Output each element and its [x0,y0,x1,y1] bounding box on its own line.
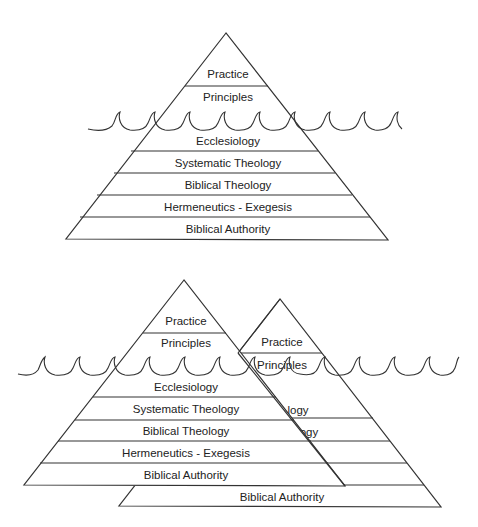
top-label-systematic-theology: Systematic Theology [175,157,282,169]
top-label-practice: Practice [207,68,249,80]
top-label-biblical-theology: Biblical Theology [185,179,272,191]
front-label-hermeneutics-exegesis: Hermeneutics - Exegesis [122,447,250,459]
top-pyramid: Practice Principles Ecclesiology Systema… [66,33,402,240]
back-label-practice: Practice [261,336,303,348]
iceberg-pyramid-diagram: Practice Principles Ecclesiology Systema… [0,0,478,527]
front-label-biblical-theology: Biblical Theology [143,425,230,437]
front-label-biblical-authority: Biblical Authority [144,469,229,481]
top-label-ecclesiology: Ecclesiology [196,135,260,147]
back-label-fragment-logy: logy [287,404,308,416]
front-label-systematic-theology: Systematic Theology [133,403,240,415]
back-label-biblical-authority: Biblical Authority [240,491,325,503]
top-waterline-waves [88,112,402,130]
top-label-biblical-authority: Biblical Authority [186,223,271,235]
front-label-practice: Practice [165,315,207,327]
top-label-principles: Principles [203,91,253,103]
top-label-hermeneutics-exegesis: Hermeneutics - Exegesis [164,201,292,213]
front-label-principles: Principles [161,337,211,349]
front-label-ecclesiology: Ecclesiology [154,381,218,393]
